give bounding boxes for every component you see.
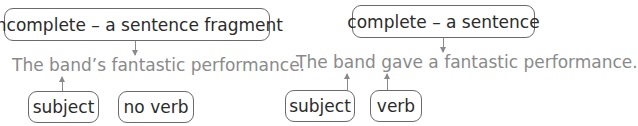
fragment-sentence: The band’s fantastic performance. [12, 55, 305, 75]
incomplete-label-box: incomplete – a sentence fragment [4, 8, 270, 41]
subject-tag-right: subject [285, 90, 355, 122]
verb-tag: verb [370, 90, 422, 122]
arrow-down-icon [135, 41, 136, 55]
no-verb-tag-label: no verb [124, 97, 189, 117]
arrow-up-icon [62, 77, 63, 91]
complete-label-box: complete – a sentence [352, 5, 535, 38]
no-verb-tag: no verb [118, 91, 194, 123]
subject-tag-left: subject [28, 91, 99, 123]
complete-label: complete – a sentence [347, 12, 539, 32]
arrow-up-icon [387, 74, 388, 90]
complete-sentence: The band gave a fantastic performance. [296, 52, 638, 72]
subject-tag-label: subject [289, 96, 351, 116]
verb-tag-label: verb [377, 96, 415, 116]
subject-tag-label: subject [33, 97, 95, 117]
incomplete-label: incomplete – a sentence fragment [0, 15, 283, 35]
arrow-down-icon [443, 38, 444, 52]
arrow-up-icon [347, 74, 348, 90]
